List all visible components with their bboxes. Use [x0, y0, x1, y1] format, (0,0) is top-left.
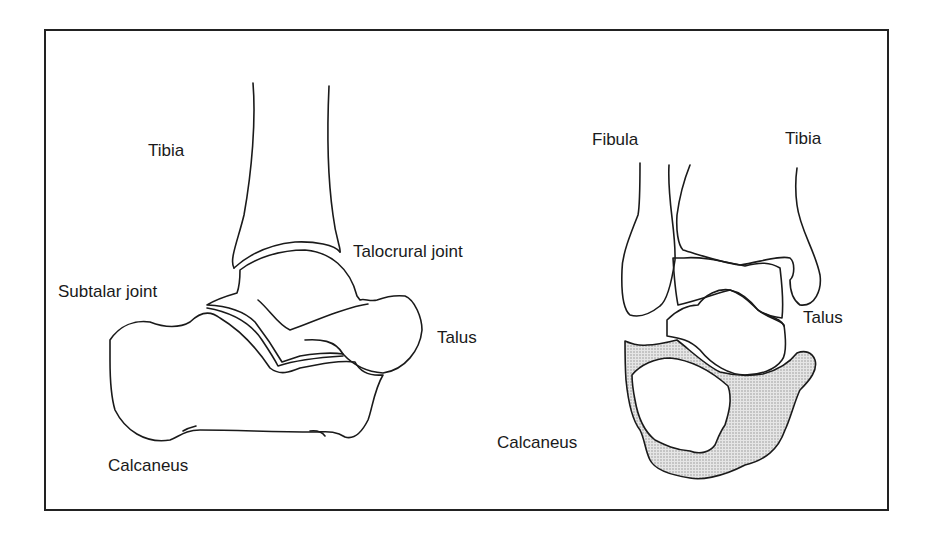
label-lateral-tibia: Tibia	[148, 142, 184, 159]
posterior-fibula	[622, 163, 675, 316]
posterior-tibia	[677, 165, 821, 305]
posterior-calcaneus	[625, 340, 816, 479]
lateral-talus	[207, 250, 422, 373]
lateral-calcaneus	[110, 308, 383, 441]
label-lateral-calcaneus: Calcaneus	[108, 457, 188, 474]
label-posterior-calcaneus: Calcaneus	[497, 434, 577, 451]
label-subtalar-joint: Subtalar joint	[58, 283, 157, 300]
lateral-tibia	[233, 83, 341, 268]
label-posterior-tibia: Tibia	[785, 130, 821, 147]
label-posterior-fibula: Fibula	[592, 131, 638, 148]
label-lateral-talus: Talus	[437, 329, 477, 346]
label-posterior-talus: Talus	[803, 309, 843, 326]
label-talocrural-joint: Talocrural joint	[353, 243, 463, 260]
